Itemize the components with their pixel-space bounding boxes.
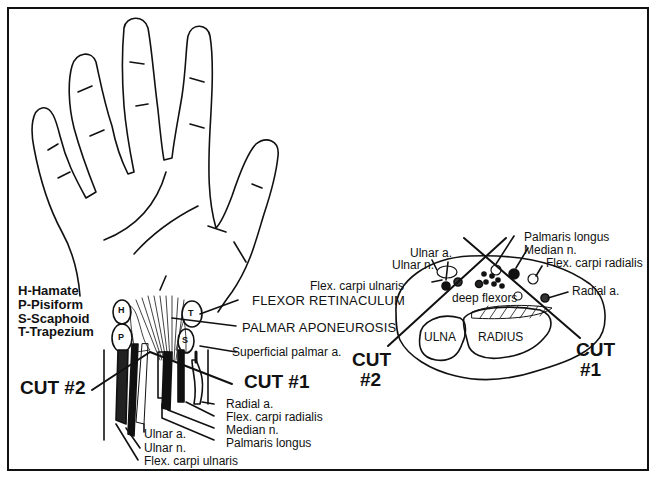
section-label-ulnar-n: Ulnar n.	[392, 259, 434, 271]
section-label-radial-a: Radial a.	[572, 285, 619, 297]
label-median-n: Median n.	[226, 424, 279, 436]
label-flexor-retinaculum: FLEXOR RETINACULUM	[252, 294, 405, 307]
label-flex-carpi-ulnaris: Flex. carpi ulnaris	[144, 455, 238, 467]
marker-hamate: H	[118, 306, 125, 315]
label-cut-1-hand: CUT #1	[244, 372, 309, 391]
label-cut-2-hand: CUT #2	[20, 378, 85, 397]
marker-scaphoid: S	[182, 336, 188, 345]
marker-trapezium: T	[188, 309, 194, 318]
label-palmar-aponeurosis: PALMAR APONEUROSIS	[242, 321, 396, 334]
section-label-ulna: ULNA	[424, 331, 456, 343]
label-superficial-palmar-a: Superficial palmar a.	[232, 346, 341, 358]
section-label-deep-flexors: deep flexors	[452, 292, 517, 304]
section-label-flex-carpi-radialis: Flex. carpi radialis	[546, 257, 643, 269]
legend-pisiform: P-Pisiform	[18, 298, 83, 311]
label-ulnar-n: Ulnar n.	[144, 442, 186, 454]
section-label-cut-1-line2: #1	[580, 360, 601, 379]
label-palmaris-longus: Palmaris longus	[226, 437, 311, 449]
section-label-flex-carpi-ulnaris: Flex. carpi ulnaris	[310, 280, 404, 292]
section-label-radius: RADIUS	[478, 331, 523, 343]
marker-pisiform: P	[118, 333, 124, 342]
legend-trapezium: T-Trapezium	[18, 325, 94, 338]
section-label-cut-1-line1: CUT	[576, 340, 615, 359]
label-ulnar-a: Ulnar a.	[144, 428, 186, 440]
label-radial-a: Radial a.	[226, 398, 273, 410]
label-flex-carpi-radialis: Flex. carpi radialis	[226, 411, 323, 423]
hand-outline	[32, 18, 278, 312]
section-label-cut-2-line1: CUT	[352, 350, 391, 369]
section-label-median-n: Median n.	[524, 244, 577, 256]
section-label-palmaris-longus: Palmaris longus	[524, 231, 609, 243]
legend-hamate: H-Hamate	[18, 284, 79, 297]
section-label-cut-2-line2: #2	[360, 370, 381, 389]
